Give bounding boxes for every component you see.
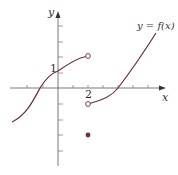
right-branch-curve [90,33,156,104]
y-tick-label-1: 1 [50,63,57,74]
open-point-lower [86,102,91,107]
function-graph: y x 1 2 y = f(x) [0,0,178,175]
y-axis-arrow-icon [56,11,61,18]
y-axis-label: y [48,7,54,18]
x-axis-arrow-icon [159,86,166,91]
open-point-upper [86,54,91,59]
x-axis-label: x [162,92,168,103]
left-branch-curve [12,57,86,123]
y-ticks [58,26,63,151]
x-tick-label-2: 2 [85,89,92,100]
filled-point [86,133,91,138]
function-label: y = f(x) [137,21,175,31]
